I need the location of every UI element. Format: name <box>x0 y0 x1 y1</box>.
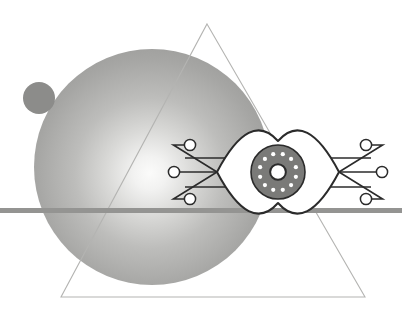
eye-iris <box>251 145 305 199</box>
iris-dot <box>263 183 267 187</box>
iris-dot <box>294 165 298 169</box>
illustration-canvas <box>0 0 402 315</box>
pupil-ring <box>270 164 286 180</box>
iris-dot <box>281 188 285 192</box>
node-left-lower <box>184 193 195 204</box>
node-right-upper <box>360 139 371 150</box>
iris-dot <box>271 188 275 192</box>
node-right-lower <box>360 193 371 204</box>
iris-dot <box>258 175 262 179</box>
cyber-eye <box>217 130 339 213</box>
node-left-upper <box>184 139 195 150</box>
iris-dot <box>263 157 267 161</box>
iris-dot <box>294 175 298 179</box>
artboard: Abstract Cyber Eye Composition Monochrom… <box>0 0 402 315</box>
small-circle <box>23 82 55 114</box>
iris-dot <box>281 152 285 156</box>
iris-dot <box>271 152 275 156</box>
iris-dot <box>258 165 262 169</box>
horizontal-bar <box>0 208 402 213</box>
iris-dot <box>289 183 293 187</box>
node-left-middle <box>168 166 179 177</box>
node-right-middle <box>376 166 387 177</box>
iris-dot <box>289 157 293 161</box>
